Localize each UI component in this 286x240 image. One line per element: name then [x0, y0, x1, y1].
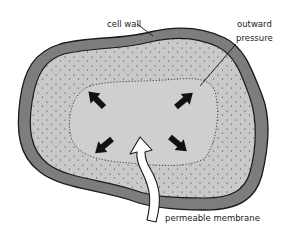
- permeable-membrane-label: permeable membrane: [165, 214, 260, 223]
- cell-wall-label: cell wall: [107, 20, 141, 29]
- outward-pressure-label-line2: pressure: [236, 34, 273, 43]
- outward-pressure-label-line1: outward: [237, 20, 272, 29]
